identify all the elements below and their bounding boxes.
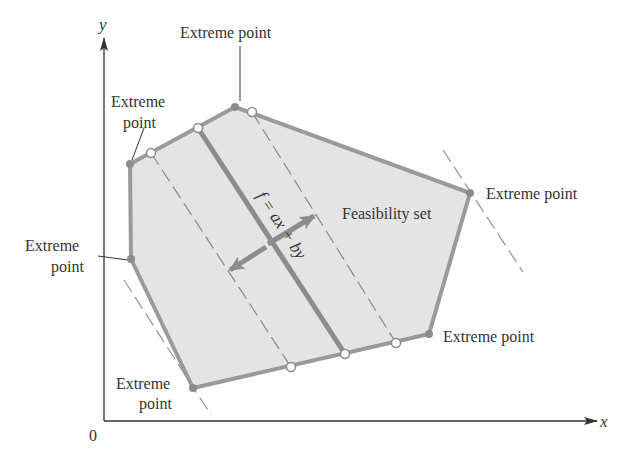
label-extreme-right: Extreme point: [486, 185, 578, 203]
intersection-point: [147, 149, 156, 158]
extreme-point-bottom: [189, 384, 197, 392]
label-feasibility-set: Feasibility set: [342, 205, 432, 223]
y-axis-label: y: [97, 15, 107, 34]
intersection-point: [194, 124, 203, 133]
intersection-point: [392, 339, 401, 348]
label-extreme-bottom-1: Extreme: [116, 375, 170, 392]
feasibility-diagram: y x 0 Extreme point Extreme point Extrem…: [0, 0, 635, 462]
intersection-point: [248, 108, 257, 117]
label-extreme-lower-right: Extreme point: [443, 328, 535, 346]
extreme-point-top: [231, 103, 239, 111]
extreme-point-upper-left: [126, 160, 134, 168]
label-extreme-left-1: Extreme: [25, 237, 79, 254]
x-axis-label: x: [599, 412, 608, 431]
intersection-point: [287, 363, 296, 372]
label-extreme-left-2: point: [51, 258, 84, 276]
label-extreme-upper-left-2: point: [123, 114, 156, 132]
leader-left: [98, 256, 128, 260]
label-extreme-upper-left-1: Extreme: [111, 93, 165, 110]
extreme-point-right: [466, 189, 474, 197]
intersection-point: [341, 350, 350, 359]
extreme-point-left: [127, 255, 135, 263]
label-extreme-top: Extreme point: [180, 24, 272, 42]
origin-label: 0: [89, 427, 97, 444]
label-extreme-bottom-2: point: [139, 395, 172, 413]
extreme-point-lower-right: [425, 330, 433, 338]
